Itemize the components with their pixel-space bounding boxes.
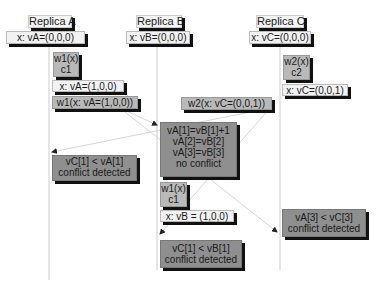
replica-b-check-box: vA[1]=vB[1]+1 vA[2]=vB[2] vA[3]=vB[3] no… [160,122,237,177]
replica-a-send-message: w1(x: vA=(1,0,0)) [52,96,138,109]
conflict-condition: vA[3] < vC[3] [283,212,365,223]
write-label: w1(x) [161,183,186,194]
replica-b-initial-clock: x: vB=(0,0,0) [126,31,190,44]
write-label: w1(x) [54,53,78,64]
write-label: w2(x) [284,56,309,67]
replica-c-initial-clock: x: vC=(0,0,0) [249,31,311,44]
replica-b-header: Replica B [136,15,182,28]
replica-a-header: Replica A [28,15,72,28]
replica-a-write-op: w1(x) c1 [53,52,79,77]
check-line-2: vA[2]=vB[2] [161,136,236,147]
commit-label: c1 [161,194,186,205]
replica-c-write-op: w2(x) c2 [283,55,310,80]
replica-c-updated-clock: x: vC=(0,0,1) [282,84,348,96]
replica-c-conflict-box: vA[3] < vC[3] conflict detected [282,209,366,237]
replica-a-initial-clock: x: vA=(0,0,0) [6,31,85,44]
commit-label: c2 [284,67,309,78]
conflict-status: conflict detected [283,223,365,234]
check-result: no conflict [161,158,236,169]
replica-b-conflict-box: vC[1] < vB[1] conflict detected [160,240,242,268]
conflict-condition: vC[1] < vB[1] [161,243,241,254]
replica-c-header: Replica C [256,15,304,28]
replica-b-updated-clock: x: vB = (1,0,0) [160,210,234,222]
commit-label: c1 [54,64,78,75]
conflict-condition: vC[1] < vA[1] [53,156,136,167]
replica-c-send-message: w2(x: vC=(0,0,1)) [181,97,272,110]
check-line-1: vA[1]=vB[1]+1 [161,125,236,136]
replica-a-updated-clock: x: vA=(1,0,0) [52,80,124,92]
conflict-status: conflict detected [161,254,241,265]
replica-a-conflict-box: vC[1] < vA[1] conflict detected [52,155,137,181]
check-line-3: vA[3]=vB[3] [161,147,236,158]
replica-b-write-op: w1(x) c1 [160,182,187,207]
vector-clock-diagram: Replica A x: vA=(0,0,0) Replica B x: vB=… [0,0,387,293]
conflict-status: conflict detected [53,167,136,178]
